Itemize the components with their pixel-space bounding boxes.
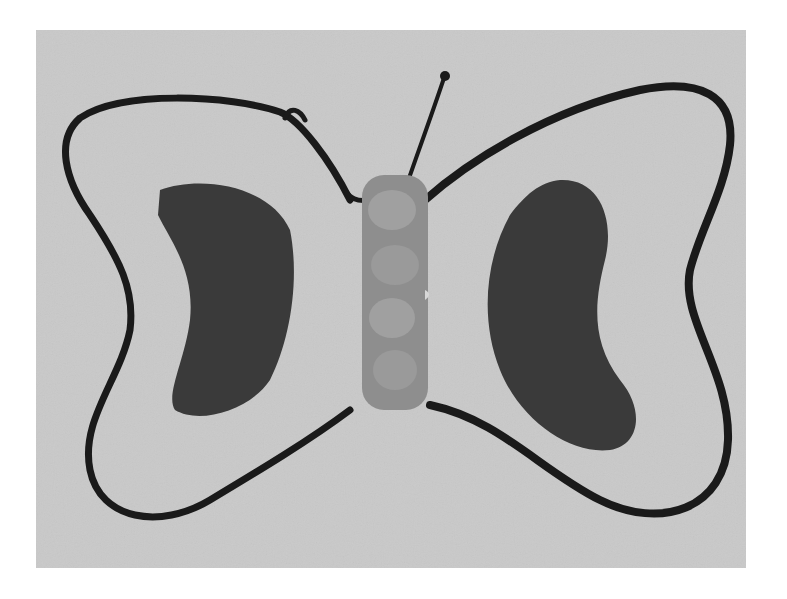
butterfly-drawing: [0, 0, 787, 599]
body: [362, 175, 429, 410]
antenna-tip: [440, 71, 450, 81]
